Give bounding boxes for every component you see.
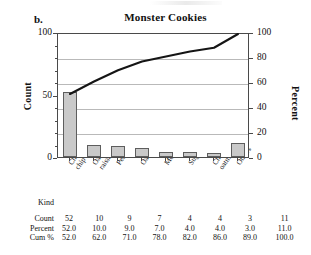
table-cell-cum: 78.0	[145, 233, 175, 243]
y-tick-mark	[53, 158, 57, 159]
y-tick-label: 50	[30, 91, 52, 101]
chart-title: Monster Cookies	[0, 11, 311, 23]
table-cell-cum: 71.0	[114, 233, 144, 243]
table-cell-cum: 62.0	[84, 233, 114, 243]
table-row-kind: Kind	[8, 196, 304, 209]
y2-tick-label: 80	[257, 53, 267, 63]
table-cell-count: 9	[114, 214, 144, 224]
table-cell-cum: 89.0	[235, 233, 265, 243]
table-cell-count: 52	[54, 214, 84, 224]
cumulative-line-series	[58, 34, 250, 159]
y-tick-label: 0	[30, 153, 52, 163]
row-header-cum: Cum %	[8, 233, 54, 243]
table-cell-cum: 86.0	[205, 233, 235, 243]
y2-axis-title: Percent	[290, 86, 301, 121]
table-cell-count: 4	[175, 214, 205, 224]
table-cell-count: 3	[235, 214, 265, 224]
plot-area	[57, 33, 249, 158]
y-tick-label: 100	[30, 28, 52, 38]
table-row-count: Count 52109744311	[8, 214, 304, 224]
kind-labels-cell	[54, 196, 304, 209]
table-cell-cum: 100.0	[265, 233, 304, 243]
data-table: Kind Count 52109744311 Percent 52.010.09…	[0, 196, 311, 243]
table-cell-cum: 82.0	[175, 233, 205, 243]
row-header-percent: Percent	[8, 224, 54, 234]
table-cell-percent: 3.0	[235, 224, 265, 234]
y2-tick-label: 20	[257, 128, 267, 138]
y2-tick-label: 0	[257, 153, 262, 163]
y2-tick-label: 40	[257, 103, 267, 113]
y2-tick-label: 100	[257, 28, 271, 38]
figure-container: b. Monster Cookies Count Percent 050100 …	[0, 0, 311, 255]
table-cell-count: 11	[265, 214, 304, 224]
table-cell-count: 7	[145, 214, 175, 224]
row-header-kind: Kind	[8, 196, 54, 209]
table-cell-count: 10	[84, 214, 114, 224]
table-cell-cum: 52.0	[54, 233, 84, 243]
table-cell-percent: 4.0	[175, 224, 205, 234]
table-cell-percent: 10.0	[84, 224, 114, 234]
table-cell-percent: 52.0	[54, 224, 84, 234]
y2-tick-label: 60	[257, 78, 267, 88]
table-cell-percent: 7.0	[145, 224, 175, 234]
table-row-cum: Cum % 52.062.071.078.082.086.089.0100.0	[8, 233, 304, 243]
table-cell-percent: 4.0	[205, 224, 235, 234]
scan-artifact	[150, 1, 222, 5]
table-cell-count: 4	[205, 214, 235, 224]
row-header-count: Count	[8, 214, 54, 224]
table-row-percent: Percent 52.010.09.07.04.04.03.011.0	[8, 224, 304, 234]
table-cell-percent: 11.0	[265, 224, 304, 234]
table-cell-percent: 9.0	[114, 224, 144, 234]
